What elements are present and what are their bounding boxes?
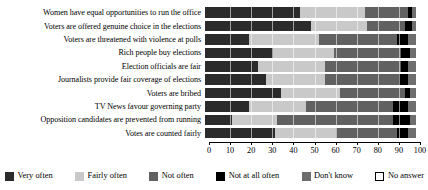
bar-segment (412, 7, 416, 18)
stacked-bar (205, 61, 416, 72)
bar-segment (300, 7, 365, 18)
bar-segment (205, 7, 300, 18)
bar-segment (275, 128, 336, 139)
bar-segment (365, 7, 407, 18)
bar-segment (205, 74, 266, 85)
legend-swatch-icon (375, 172, 384, 181)
bar-segment (399, 74, 407, 85)
bar-segment (205, 128, 275, 139)
bar-row-label: TV News favour governing party (0, 102, 205, 111)
stacked-bar (205, 74, 416, 85)
legend-swatch-icon (75, 172, 84, 181)
legend-swatch-icon (5, 172, 14, 181)
plot-area: Women have equal opportunities to run th… (0, 6, 428, 142)
legend-item[interactable]: Not at all often (216, 171, 279, 181)
bar-segment (205, 61, 258, 72)
bar-segment (393, 101, 408, 112)
bar-segment (266, 74, 325, 85)
bar-segment (325, 74, 399, 85)
x-tick-label: 10 (226, 146, 234, 156)
stacked-bar (205, 48, 416, 59)
bar-segment (325, 61, 401, 72)
legend-label: Don't know (314, 171, 353, 181)
bar-segment (205, 88, 281, 99)
bar-segment (273, 48, 334, 59)
x-tick (209, 142, 210, 145)
x-tick (399, 142, 400, 145)
stacked-bar (205, 21, 416, 32)
stacked-bar (205, 128, 416, 139)
legend-item[interactable]: Not often (149, 171, 193, 181)
x-tick (251, 142, 252, 145)
legend-label: Fairly often (88, 171, 127, 181)
bar-segment (397, 128, 408, 139)
bar-segment (205, 115, 232, 126)
bar-row-label: Votes are counted fairly (0, 129, 205, 138)
x-tick-label: 40 (289, 146, 297, 156)
x-tick (272, 142, 273, 145)
stacked-bar-chart: Women have equal opportunities to run th… (0, 0, 428, 190)
bar-segment (336, 128, 397, 139)
legend-swatch-icon (302, 172, 311, 181)
bar-row: Opposition candidates are prevented from… (0, 113, 428, 126)
bar-segment (277, 115, 393, 126)
bar-row-label: Opposition candidates are prevented from… (0, 115, 205, 124)
bar-row: Votes are counted fairly (0, 127, 428, 140)
bar-segment (408, 34, 416, 45)
bar-row-label: Election officials are fair (0, 62, 205, 71)
stacked-bar (205, 88, 416, 99)
x-tick-label: 30 (268, 146, 276, 156)
x-tick-label: 80 (374, 146, 382, 156)
bar-segment (249, 101, 306, 112)
bar-segment (367, 21, 405, 32)
bar-row: Voters are bribed (0, 86, 428, 99)
bar-row-label: Voters are offered genuine choice in the… (0, 22, 205, 31)
x-tick-label: 50 (310, 146, 318, 156)
bar-row-label: Women have equal opportunities to run th… (0, 8, 205, 17)
bar-row: Election officials are fair (0, 60, 428, 73)
x-tick (420, 142, 421, 145)
x-tick (378, 142, 379, 145)
bar-segment (249, 34, 319, 45)
legend-label: Very often (18, 171, 53, 181)
bar-rows: Women have equal opportunities to run th… (0, 6, 428, 140)
bar-segment (412, 21, 416, 32)
x-tick-label: 70 (353, 146, 361, 156)
stacked-bar (205, 34, 416, 45)
stacked-bar (205, 115, 416, 126)
x-axis-tick-labels: 0102030405060708090100 (209, 146, 420, 158)
bar-row: TV News favour governing party (0, 100, 428, 113)
legend-item[interactable]: No answer (375, 171, 424, 181)
x-tick (315, 142, 316, 145)
x-tick (230, 142, 231, 145)
bar-segment (410, 115, 416, 126)
bar-segment (340, 88, 405, 99)
bar-row-label: Rich people buy elections (0, 48, 205, 57)
bar-segment (408, 128, 416, 139)
bar-segment (408, 101, 416, 112)
x-tick-label: 100 (414, 146, 426, 156)
bar-row: Journalists provide fair coverage of ele… (0, 73, 428, 86)
bar-segment (393, 115, 410, 126)
bar-segment (205, 21, 311, 32)
bar-segment (205, 48, 273, 59)
bar-segment (410, 88, 416, 99)
legend-swatch-icon (149, 172, 158, 181)
legend-item[interactable]: Fairly often (75, 171, 127, 181)
bar-row: Voters are threatened with violence at p… (0, 33, 428, 46)
bar-segment (408, 74, 416, 85)
x-tick-label: 90 (395, 146, 403, 156)
legend-label: Not at all often (229, 171, 279, 181)
bar-segment (410, 48, 416, 59)
x-tick (336, 142, 337, 145)
legend-item[interactable]: Don't know (302, 171, 353, 181)
bar-segment (205, 34, 249, 45)
legend-item[interactable]: Very often (5, 171, 53, 181)
legend-label: No answer (388, 171, 424, 181)
bar-row-label: Journalists provide fair coverage of ele… (0, 75, 205, 84)
bar-segment (205, 101, 249, 112)
bar-segment (334, 48, 402, 59)
stacked-bar (205, 101, 416, 112)
x-tick-label: 60 (332, 146, 340, 156)
chart-legend: Very oftenFairly oftenNot oftenNot at al… (0, 166, 428, 186)
